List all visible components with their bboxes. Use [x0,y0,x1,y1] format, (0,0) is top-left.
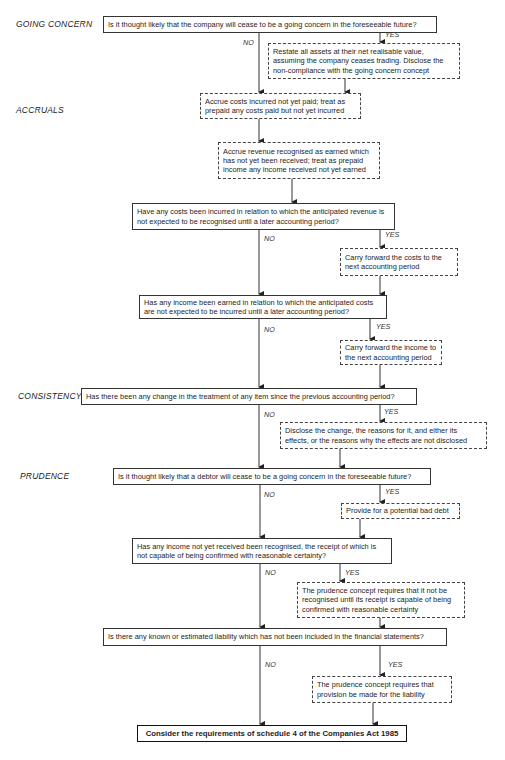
action-accrue-costs: Accrue costs incurred not yet paid; trea… [200,93,361,119]
yes-label: YES [385,230,399,239]
question-debtor: Is it thought likely that a debtor will … [113,468,431,485]
no-label: NO [243,38,254,47]
action-bad-debt: Provide for a potential bad debt [341,503,460,519]
section-label-consistency: CONSISTENCY [18,391,82,401]
final-consider-companies-act: Consider the requirements of schedule 4 … [137,725,407,742]
question-costs-incurred: Have any costs been incurred in relation… [132,203,395,230]
section-label-prudence: PRUDENCE [20,471,69,481]
question-going-concern: Is it thought likely that the company wi… [103,16,437,33]
question-consistency: Has there been any change in the treatme… [81,388,417,405]
action-disclose-change: Disclose the change, the reasons for it,… [280,422,487,449]
no-label: NO [264,234,275,243]
no-label: NO [264,410,275,419]
no-label: NO [264,490,275,499]
action-carry-forward-income: Carry forward the income to the next acc… [340,340,442,365]
section-label-going-concern: GOING CONCERN [16,19,92,29]
no-label: NO [265,660,276,669]
no-label: NO [264,325,275,334]
yes-label: YES [385,487,399,496]
action-accrue-revenue: Accrue revenue recognised as earned whic… [218,142,380,179]
yes-label: YES [384,407,398,416]
question-income-not-received: Has any income not yet received been rec… [132,538,392,564]
action-prudence-income: The prudence concept requires that it no… [297,582,465,618]
action-restate-assets: Restate all assets at their net realisab… [268,43,460,79]
action-carry-forward-costs: Carry forward the costs to the next acco… [340,248,458,276]
yes-label: YES [388,660,402,669]
yes-label: YES [376,322,390,331]
question-liability: Is there any known or estimated liabilit… [103,628,447,646]
section-label-accruals: ACCRUALS [16,105,64,115]
yes-label: YES [345,568,359,577]
question-income-earned: Has any income been earned in relation t… [139,295,387,319]
action-prudence-liability: The prudence concept requires that provi… [312,676,452,703]
no-label: NO [265,568,276,577]
